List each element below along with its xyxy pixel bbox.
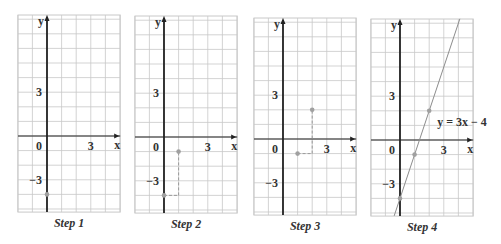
origin-label: 0 — [389, 143, 395, 157]
y-axis-label: y — [38, 14, 44, 28]
y-axis-label: y — [155, 15, 161, 29]
y-tick-3: 3 — [272, 88, 278, 102]
coordinate-grid: yx033−3y = 3x − 4 — [371, 19, 473, 216]
equation-label: y = 3x − 4 — [437, 115, 487, 129]
y-tick-3: 3 — [36, 85, 42, 99]
origin-label: 0 — [36, 139, 42, 153]
graph-panel-4: yx033−3y = 3x − 4 — [371, 19, 473, 216]
y-axis-arrow-icon — [44, 15, 49, 21]
y-tick-neg3: −3 — [382, 177, 395, 191]
x-tick-3: 3 — [324, 142, 330, 156]
plotted-point — [45, 192, 50, 197]
step-caption: Step 2 — [136, 217, 236, 232]
y-axis-arrow-icon — [397, 19, 402, 25]
plotted-point — [427, 108, 432, 113]
x-axis-label: x — [231, 139, 237, 153]
plotted-point — [310, 107, 315, 112]
y-axis-label: y — [391, 18, 397, 32]
y-tick-neg3: −3 — [29, 173, 42, 187]
y-tick-3: 3 — [153, 86, 159, 100]
x-tick-3: 3 — [441, 143, 447, 157]
origin-label: 0 — [272, 142, 278, 156]
plotted-point — [162, 193, 167, 198]
coordinate-grid: yx033−3 — [135, 16, 237, 213]
y-axis-label: y — [274, 17, 280, 31]
graph-panel-3: yx033−3 — [254, 18, 356, 215]
x-axis-label: x — [114, 138, 120, 152]
step-caption: Step 3 — [255, 219, 355, 234]
x-axis-label: x — [350, 141, 356, 155]
plotted-point — [295, 151, 300, 156]
y-tick-neg3: −3 — [146, 174, 159, 188]
plotted-point — [176, 149, 181, 154]
y-tick-3: 3 — [389, 89, 395, 103]
y-axis-arrow-icon — [161, 16, 166, 22]
plotted-point — [398, 196, 403, 201]
coordinate-grid: yx033−3 — [254, 18, 356, 215]
step-caption: Step 1 — [19, 216, 119, 231]
graph-panel-1: yx033−3 — [18, 15, 120, 212]
x-tick-3: 3 — [88, 139, 94, 153]
plotted-point — [412, 152, 417, 157]
graph-panel-2: yx033−3 — [135, 16, 237, 213]
coordinate-grid: yx033−3 — [18, 15, 120, 212]
y-axis-arrow-icon — [280, 18, 285, 24]
y-tick-neg3: −3 — [265, 176, 278, 190]
x-tick-3: 3 — [205, 140, 211, 154]
step-caption: Step 4 — [372, 220, 472, 235]
x-axis-label: x — [467, 142, 473, 156]
origin-label: 0 — [153, 140, 159, 154]
